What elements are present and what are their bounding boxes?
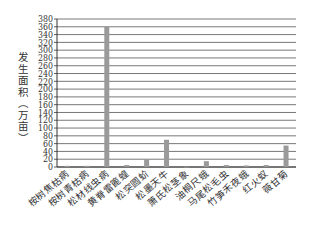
bar <box>144 159 149 167</box>
bar <box>104 27 109 167</box>
bar <box>164 140 169 167</box>
y-tick-label: 380 <box>38 13 53 24</box>
bar <box>264 165 269 167</box>
bar <box>224 165 229 167</box>
bar <box>84 166 89 167</box>
bar <box>124 165 129 167</box>
bar <box>244 165 249 167</box>
bar <box>204 161 209 167</box>
bar-chart: 0204060801001201401601802002202402602803… <box>0 0 310 226</box>
bar <box>284 146 289 167</box>
bar <box>64 166 69 167</box>
bar <box>184 167 189 168</box>
